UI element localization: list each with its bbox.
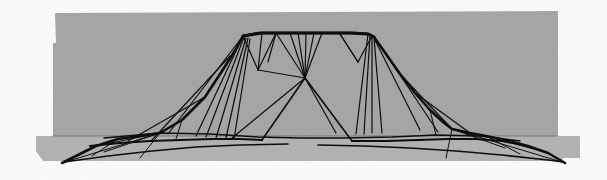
wireframe-figure [0,0,607,180]
terrain-wireframe-canvas [0,0,607,180]
